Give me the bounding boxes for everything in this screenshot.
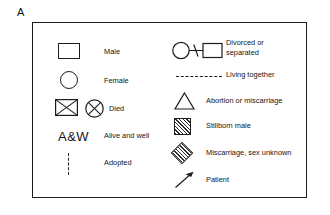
- legend-label-divorced-line1: Divorced or: [226, 38, 264, 47]
- legend-label-divorced: Divorced orseparated: [226, 38, 304, 58]
- legend-item-died: Died: [33, 99, 168, 121]
- square-icon: [58, 43, 80, 59]
- legend-label-divorced-line2: separated: [226, 48, 259, 57]
- legend-item-adopted: Adopted: [33, 153, 168, 177]
- legend-label-living-together: Living together: [226, 71, 274, 80]
- legend-label-patient: Patient: [206, 176, 229, 185]
- legend-label-alive-and-well: Alive and well: [104, 132, 149, 141]
- vertical-dashed-line-icon: [59, 153, 69, 175]
- crossed-circle-icon: [85, 99, 104, 118]
- crossed-square-icon: [55, 99, 78, 116]
- legend-left-column: Male Female: [33, 23, 168, 197]
- legend-item-divorced: Divorced orseparated: [168, 37, 308, 63]
- hatched-square-icon: [174, 118, 191, 135]
- legend-label-male: Male: [104, 48, 120, 57]
- panel-label: A: [17, 6, 25, 18]
- legend-item-alive-and-well: A&W Alive and well: [33, 127, 168, 147]
- legend-label-miscarriage: Miscarriage, sex unknown: [206, 149, 291, 158]
- legend-box: Male Female: [32, 22, 307, 198]
- legend-label-adopted: Adopted: [104, 159, 132, 168]
- legend-label-abortion: Abortion or miscarriage: [206, 97, 282, 106]
- legend-right-column: Divorced orseparated Living together Abo…: [168, 23, 308, 197]
- legend-item-stillborn-male: Stillborn male: [168, 117, 308, 137]
- legend-item-abortion: Abortion or miscarriage: [168, 91, 308, 111]
- legend-label-female: Female: [104, 77, 129, 86]
- legend-item-male: Male: [33, 43, 168, 65]
- legend-item-miscarriage: Miscarriage, sex unknown: [168, 141, 308, 165]
- triangle-icon: [174, 92, 195, 110]
- a-and-w-icon: A&W: [58, 127, 89, 145]
- hatched-diamond-icon: [170, 141, 194, 165]
- legend-item-living-together: Living together: [168, 69, 308, 83]
- circle-icon: [60, 71, 78, 89]
- legend-item-patient: Patient: [168, 171, 308, 191]
- circle-slash-square-icon: [172, 41, 224, 60]
- a-and-w-glyph: A&W: [58, 129, 89, 144]
- arrow-icon: [174, 171, 196, 189]
- legend-item-female: Female: [33, 71, 168, 93]
- legend-label-died: Died: [109, 105, 124, 114]
- horizontal-dashed-line-icon: [172, 71, 222, 77]
- legend-label-stillborn-male: Stillborn male: [206, 122, 251, 131]
